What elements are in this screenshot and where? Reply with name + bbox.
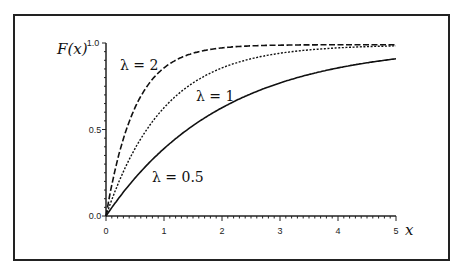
x-tick-0: 0 xyxy=(103,226,108,236)
x-axis-label: x xyxy=(405,221,414,239)
y-tick-1-0: 1.0 xyxy=(87,38,100,48)
x-tick-4: 4 xyxy=(335,226,340,236)
x-tick-1: 1 xyxy=(161,226,166,236)
annotation-lambda-2: λ = 2 xyxy=(120,57,158,73)
y-tick-0-5: 0.5 xyxy=(89,125,102,135)
y-tick-0-0: 0.0 xyxy=(89,211,102,221)
y-axis-label: F(x) xyxy=(56,40,88,58)
x-tick-3: 3 xyxy=(277,226,282,236)
x-tick-2: 2 xyxy=(219,226,224,236)
annotation-lambda-0-5: λ = 0.5 xyxy=(152,169,204,185)
annotation-lambda-1: λ = 1 xyxy=(196,88,234,104)
x-tick-5: 5 xyxy=(393,226,398,236)
cdf-chart: 1.0 0.5 0.0 0 1 2 3 4 5 F(x) x λ = 2 λ =… xyxy=(0,0,467,276)
